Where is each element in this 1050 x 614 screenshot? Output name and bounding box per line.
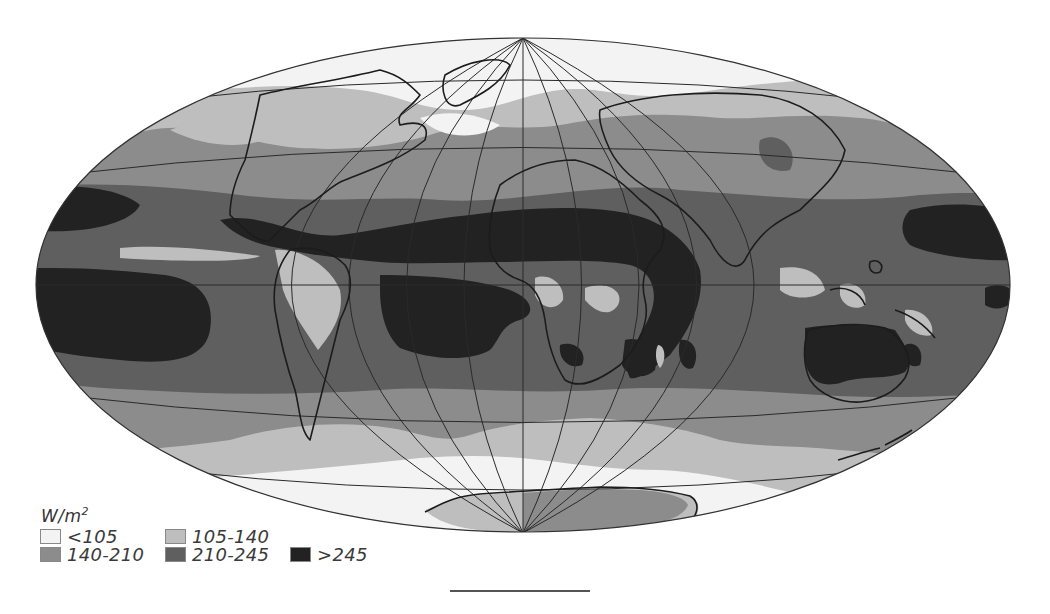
legend-row-2: 140-210 210-245 >245 — [40, 545, 415, 563]
zone-gt245-south-pacific — [0, 268, 211, 362]
legend-row-1: <105 105-140 — [40, 527, 415, 545]
legend: W/m2 <105 105-140 140-210 210-245 >245 — [40, 505, 415, 563]
legend-item-gt245: >245 — [290, 544, 415, 565]
legend-unit-base: W/m — [41, 506, 82, 526]
legend-item-210-245: 210-245 — [165, 544, 290, 565]
swatch-105-140 — [165, 529, 186, 544]
legend-item-140-210: 140-210 — [40, 544, 165, 565]
divider-rule — [450, 590, 590, 592]
legend-unit: W/m2 — [41, 505, 415, 527]
legend-label-210-245: 210-245 — [192, 544, 269, 565]
legend-unit-exponent: 2 — [82, 505, 90, 518]
swatch-140-210 — [40, 547, 61, 562]
swatch-gt245 — [290, 547, 311, 562]
swatch-lt105 — [40, 529, 61, 544]
legend-label-gt245: >245 — [317, 544, 368, 565]
legend-label-140-210: 140-210 — [67, 544, 144, 565]
swatch-210-245 — [165, 547, 186, 562]
